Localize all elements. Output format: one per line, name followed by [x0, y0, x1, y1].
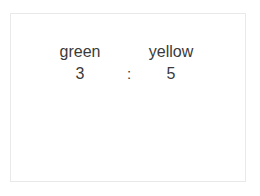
ratio-value-row: 3 : 5 — [11, 64, 247, 84]
screenshot-canvas: green yellow 3 : 5 — [0, 0, 260, 196]
content-frame: green yellow 3 : 5 — [10, 13, 246, 182]
right-color-label: yellow — [111, 42, 231, 62]
ratio-label-row: green yellow — [11, 42, 247, 62]
right-color-value: 5 — [111, 64, 231, 84]
